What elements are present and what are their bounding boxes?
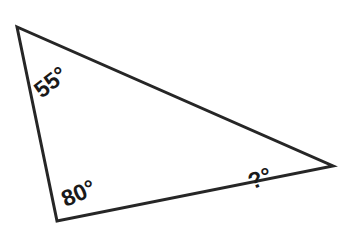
geometry-figure: 55° 80° ?° [0,0,353,238]
triangle-shape [0,0,353,238]
